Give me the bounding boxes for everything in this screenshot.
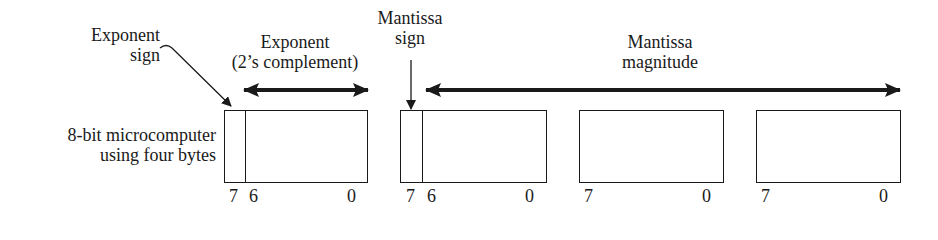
mantissa-sign-bit-divider xyxy=(422,111,423,182)
bit-label-7: 7 xyxy=(406,186,415,206)
mantissa-mid-byte-box xyxy=(579,110,724,183)
bit-label-7: 7 xyxy=(584,186,593,206)
bit-label-0: 0 xyxy=(525,186,534,206)
mantissa-low-byte-box xyxy=(756,110,901,183)
bit-label-7: 7 xyxy=(761,186,770,206)
bit-label-0: 0 xyxy=(879,186,888,206)
bit-label-0: 0 xyxy=(347,186,356,206)
exponent-sign-leader-arrow xyxy=(160,46,231,107)
bit-label-0: 0 xyxy=(702,186,711,206)
exponent-sign-bit-divider xyxy=(245,111,246,182)
bit-label-6: 6 xyxy=(427,186,436,206)
bit-label-7: 7 xyxy=(229,186,238,206)
bit-label-6: 6 xyxy=(249,186,258,206)
exponent-byte-box xyxy=(224,110,368,183)
mantissa-high-byte-box xyxy=(400,110,547,183)
